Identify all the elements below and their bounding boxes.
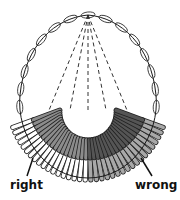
wrong-label: wrong (135, 179, 177, 191)
wrong-pointer-line (141, 158, 152, 176)
right-pointer-line (27, 158, 33, 176)
shell-edge-segments (16, 11, 159, 114)
radial-bars (13, 110, 163, 180)
right-label: right (10, 179, 43, 191)
shell-diagram (0, 0, 180, 200)
dashed-radial-lines (45, 15, 131, 120)
